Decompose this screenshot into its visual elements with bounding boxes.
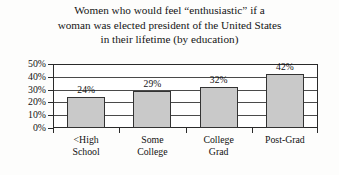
y-tick-label: 40% — [28, 72, 46, 82]
bar-slot: 42% — [252, 64, 318, 128]
x-tick-mark — [186, 128, 187, 133]
bar[interactable] — [133, 91, 171, 128]
x-category-label-line: College — [119, 146, 185, 158]
bar-slot: 32% — [186, 64, 252, 128]
bar-slot: 29% — [119, 64, 185, 128]
x-category-label-line: College — [186, 134, 252, 146]
x-category-label-line: School — [53, 146, 119, 158]
y-tick-label: 10% — [28, 110, 46, 120]
bar-value-label: 29% — [144, 79, 162, 89]
x-category-label: SomeCollege — [119, 134, 185, 157]
bar[interactable] — [266, 74, 304, 128]
x-tick-mark — [252, 128, 253, 133]
chart-title-line-2: woman was elected president of the Unite… — [0, 18, 339, 33]
x-category-label-line: Post-Grad — [252, 134, 318, 146]
bar-chart-figure: Women who would feel “enthusiastic” if a… — [0, 0, 339, 175]
x-axis-labels: <HighSchoolSomeCollegeCollegeGradPost-Gr… — [53, 134, 318, 168]
x-tick-mark — [317, 128, 318, 133]
x-axis-ticks — [53, 128, 318, 133]
x-category-label: <HighSchool — [53, 134, 119, 157]
x-category-label-line: Grad — [186, 146, 252, 158]
bar-slot: 24% — [53, 64, 119, 128]
bar-value-label: 42% — [276, 62, 294, 72]
x-tick-mark — [119, 128, 120, 133]
x-category-label-line: Some — [119, 134, 185, 146]
chart-title-line-3: in their lifetime (by education) — [0, 32, 339, 47]
y-axis: 50%40%30%20%10%0% — [0, 64, 50, 128]
bar[interactable] — [67, 97, 105, 128]
x-category-label: Post-Grad — [252, 134, 318, 146]
chart-title: Women who would feel “enthusiastic” if a… — [0, 3, 339, 47]
y-tick-label: 50% — [28, 59, 46, 69]
bar-value-label: 24% — [77, 85, 95, 95]
bar[interactable] — [200, 87, 238, 128]
y-tick-label: 20% — [28, 97, 46, 107]
y-tick-label: 0% — [33, 123, 46, 133]
bar-value-label: 32% — [210, 75, 228, 85]
bars-layer: 24%29%32%42% — [53, 64, 318, 128]
x-category-label: CollegeGrad — [186, 134, 252, 157]
x-category-label-line: <High — [53, 134, 119, 146]
chart-title-line-1: Women who would feel “enthusiastic” if a — [0, 3, 339, 18]
y-tick-label: 30% — [28, 85, 46, 95]
x-tick-mark — [53, 128, 54, 133]
